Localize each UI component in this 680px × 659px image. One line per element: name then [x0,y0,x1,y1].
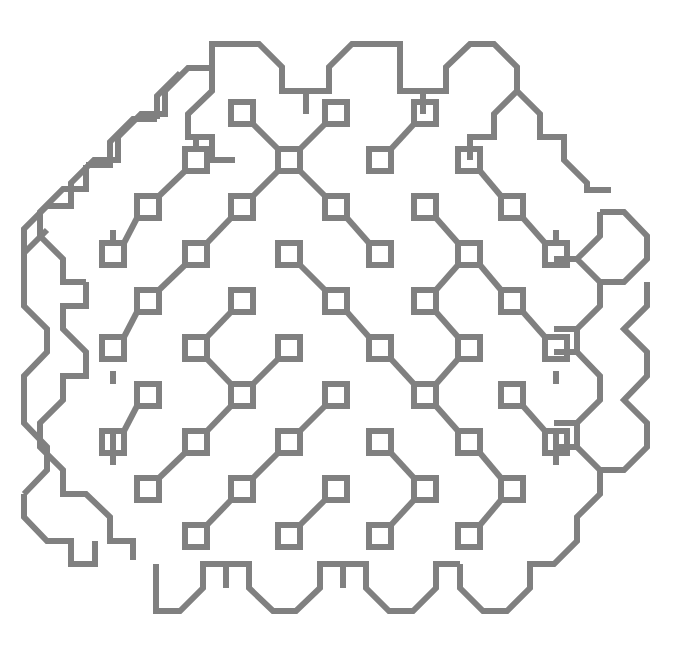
artwork-canvas [0,0,680,659]
lattice-pattern-svg [0,0,680,659]
